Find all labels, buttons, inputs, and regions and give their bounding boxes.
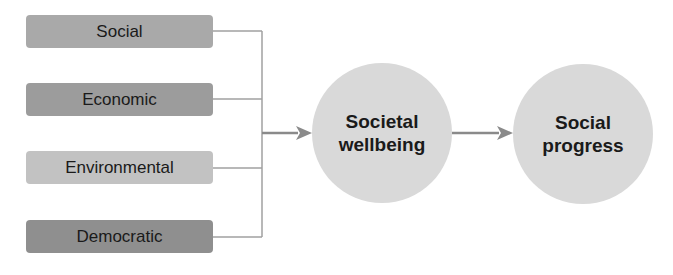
node-label-line2: progress — [542, 134, 623, 157]
input-label: Economic — [82, 90, 157, 110]
input-label: Democratic — [77, 227, 163, 247]
node-label-line2: wellbeing — [339, 133, 426, 156]
input-box-economic: Economic — [26, 83, 213, 116]
node-social-progress: Social progress — [513, 64, 653, 204]
arrow-to-progress — [452, 126, 513, 140]
input-box-environmental: Environmental — [26, 151, 213, 184]
arrow-to-wellbeing — [262, 126, 312, 140]
node-label-line1: Societal — [339, 110, 426, 133]
input-box-democratic: Democratic — [26, 220, 213, 253]
input-box-social: Social — [26, 15, 213, 48]
node-label-line1: Social — [542, 111, 623, 134]
input-label: Social — [96, 22, 142, 42]
input-label: Environmental — [65, 158, 174, 178]
node-societal-wellbeing: Societal wellbeing — [312, 63, 452, 203]
